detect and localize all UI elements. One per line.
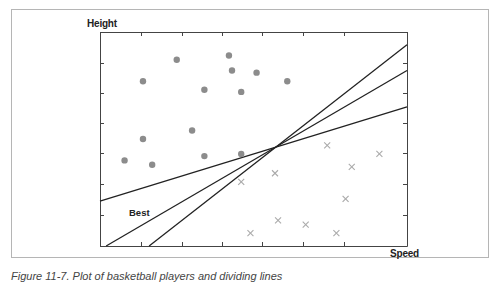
data-point-cross bbox=[349, 164, 355, 170]
data-point-cross bbox=[343, 196, 349, 202]
dividing-line-shallow bbox=[100, 107, 407, 201]
data-point-cross bbox=[247, 230, 253, 236]
data-point-circle bbox=[238, 151, 244, 157]
data-points bbox=[121, 52, 382, 236]
data-point-circle bbox=[201, 153, 207, 159]
dividing-lines bbox=[100, 45, 407, 246]
data-point-circle bbox=[121, 157, 127, 163]
data-point-circle bbox=[201, 87, 207, 93]
data-point-cross bbox=[275, 217, 281, 223]
data-point-circle bbox=[140, 136, 146, 142]
data-point-circle bbox=[140, 78, 146, 84]
data-point-cross bbox=[272, 170, 278, 176]
data-point-circle bbox=[189, 127, 195, 133]
data-point-circle bbox=[149, 161, 155, 167]
data-point-circle bbox=[238, 89, 244, 95]
dividing-line-steep bbox=[149, 45, 407, 246]
data-point-cross bbox=[238, 179, 244, 185]
data-point-cross bbox=[333, 230, 339, 236]
data-point-circle bbox=[284, 78, 290, 84]
data-point-circle bbox=[174, 57, 180, 63]
data-point-circle bbox=[226, 52, 232, 58]
data-point-cross bbox=[324, 142, 330, 148]
data-point-circle bbox=[253, 69, 259, 75]
data-point-circle bbox=[229, 67, 235, 73]
data-point-cross bbox=[376, 151, 382, 157]
dividing-line-best bbox=[106, 71, 407, 246]
data-point-cross bbox=[303, 222, 309, 228]
